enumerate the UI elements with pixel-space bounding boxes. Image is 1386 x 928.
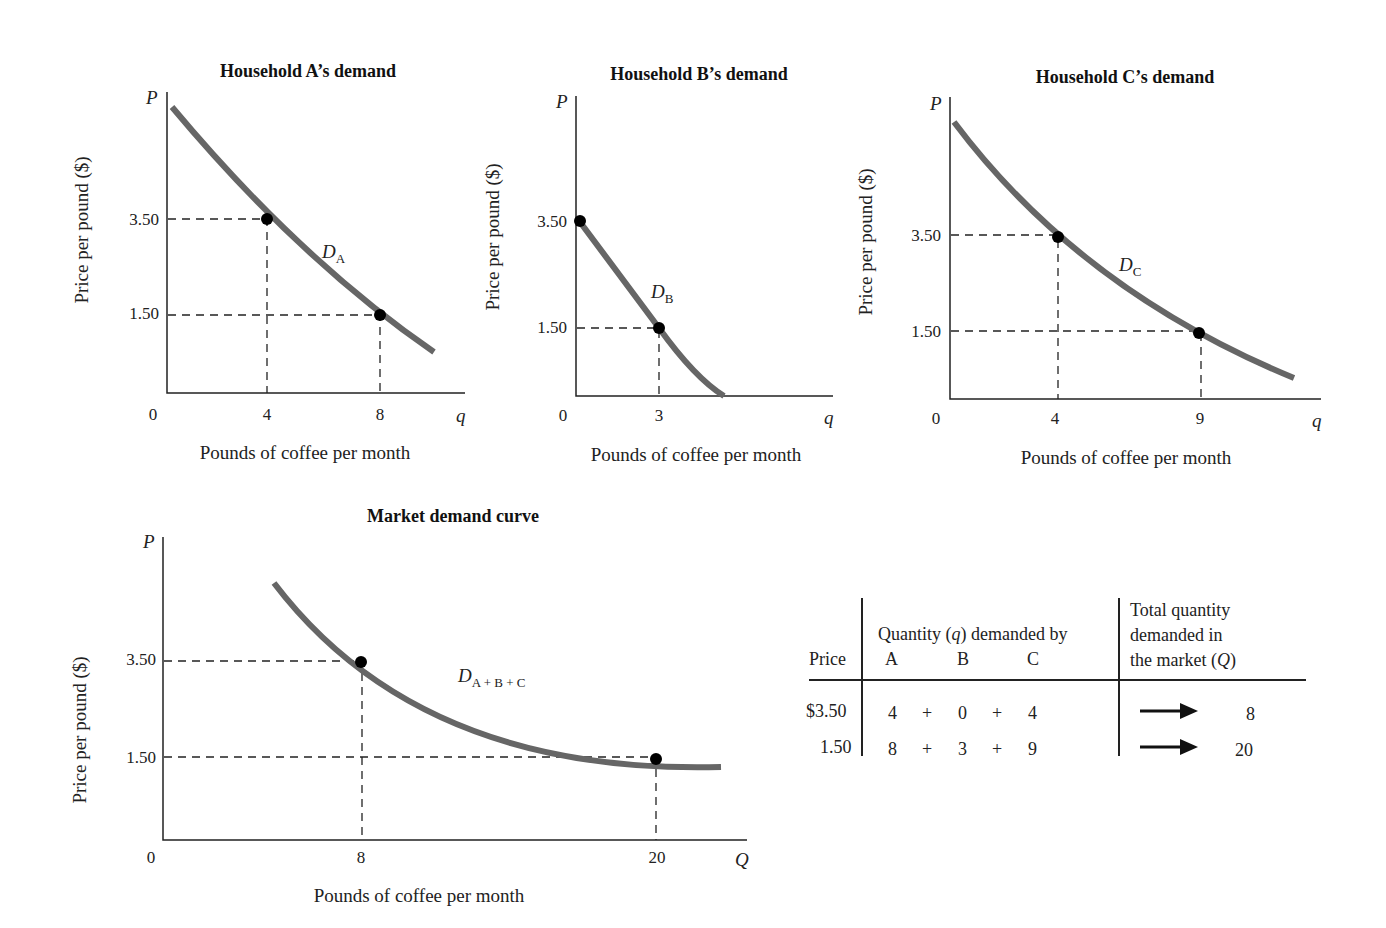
plus-sign: + [922,739,932,760]
x-tick-4: 4 [263,405,272,424]
y-axis-label: Price per pound ($) [69,656,91,803]
y-axis-label: Price per pound ($) [855,168,877,315]
chart-household-b: Household B’s demand P Price per pound (… [482,64,834,465]
y-tick-1-50: 1.50 [537,318,567,337]
y-tick-3-50: 3.50 [537,212,567,231]
axes [167,92,465,393]
y-tick-1-50: 1.50 [126,748,156,767]
x-axis-var: Q [735,849,749,870]
chart-household-c: Household C’s demand P Price per pound (… [855,67,1322,468]
arrow-right-icon [1140,702,1200,720]
table-divider-price [861,598,863,756]
chart-title: Household B’s demand [610,64,787,84]
chart-market-demand: Market demand curve P Price per pound ($… [69,506,749,906]
row2-c: 9 [1028,739,1037,760]
axes [576,96,833,396]
header-col-b: B [957,649,969,670]
point-4-3-50 [261,213,273,225]
row2-a: 8 [888,739,897,760]
x-tick-4: 4 [1051,409,1060,428]
x-tick-8: 8 [357,848,366,867]
row1-b: 0 [958,703,967,724]
row1-c: 4 [1028,703,1037,724]
header-total-line2: demanded in [1130,625,1222,646]
guide-1-50 [577,328,659,396]
plus-sign: + [922,703,932,724]
table-header-rule [809,679,1306,681]
row1-total: 8 [1246,704,1255,725]
guide-1-50 [951,331,1201,399]
row1-a: 4 [888,703,897,724]
demand-curve-c [954,122,1294,378]
curve-label: DB [650,281,674,306]
chart-title: Market demand curve [367,506,539,526]
y-axis-var: P [929,93,942,114]
market-demand-table: Price Quantity (q) demanded by A B C Tot… [806,598,1306,758]
x-axis-label: Pounds of coffee per month [591,444,802,465]
origin-label: 0 [149,405,158,424]
y-axis-var: P [555,91,568,112]
y-tick-1-50: 1.50 [911,322,941,341]
y-tick-3-50: 3.50 [126,650,156,669]
y-tick-3-50: 3.50 [129,210,159,229]
curve-label: DC [1118,254,1141,279]
guide-3-50 [168,219,267,393]
header-col-c: C [1027,649,1039,670]
row1-price: $3.50 [806,701,847,722]
row2-total: 20 [1235,740,1253,761]
point-3-1-50 [653,322,665,334]
origin-label: 0 [559,406,568,425]
y-tick-1-50: 1.50 [129,304,159,323]
point-4-3-50 [1052,231,1064,243]
chart-title: Household C’s demand [1036,67,1214,87]
x-tick-8: 8 [376,405,385,424]
x-tick-20: 20 [649,848,666,867]
origin-label: 0 [147,848,156,867]
curve-label: DA + B + C [457,665,525,690]
y-axis-label: Price per pound ($) [71,156,93,303]
point-8-1-50 [374,309,386,321]
x-axis-label: Pounds of coffee per month [314,885,525,906]
axes [950,97,1321,399]
x-axis-var: q [456,405,466,426]
arrow-right-icon [1140,738,1200,756]
table-divider-total [1118,598,1120,756]
header-quantity: Quantity (q) demanded by [878,624,1067,645]
point-8-3-50 [355,656,367,668]
header-total-line3: the market (Q) [1130,650,1236,671]
x-axis-label: Pounds of coffee per month [200,442,411,463]
y-axis-label: Price per pound ($) [482,163,504,310]
header-total-line1: Total quantity [1130,600,1230,621]
point-0-3-50 [574,215,586,227]
row2-b: 3 [958,739,967,760]
y-axis-var: P [145,87,158,108]
figure-canvas: Household A’s demand P Price per pound (… [0,0,1386,928]
x-tick-9: 9 [1196,409,1205,428]
header-price: Price [809,649,846,670]
guide-1-50 [164,757,656,840]
x-axis-var: q [824,407,834,428]
axes [163,537,747,840]
guide-3-50 [164,661,362,840]
demand-curve-b [580,222,724,396]
y-axis-var: P [142,531,155,552]
plus-sign: + [992,703,1002,724]
x-axis-var: q [1312,410,1322,431]
x-tick-3: 3 [655,406,664,425]
guide-1-50 [168,315,380,393]
point-20-1-50 [650,753,662,765]
guide-3-50 [951,235,1058,399]
origin-label: 0 [932,409,941,428]
row2-price: 1.50 [820,737,852,758]
plus-sign: + [992,739,1002,760]
chart-title: Household A’s demand [220,61,396,81]
chart-household-a: Household A’s demand P Price per pound (… [71,61,466,463]
header-col-a: A [885,649,898,670]
point-9-1-50 [1193,327,1205,339]
y-tick-3-50: 3.50 [911,226,941,245]
x-axis-label: Pounds of coffee per month [1021,447,1232,468]
